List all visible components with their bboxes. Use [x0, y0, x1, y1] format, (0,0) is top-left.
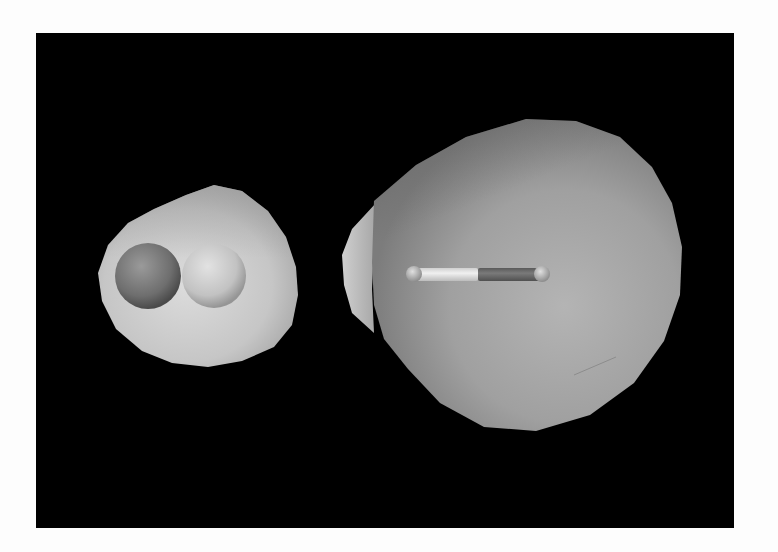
rod-light-segment	[416, 268, 478, 281]
surface-cap	[342, 203, 376, 333]
small-isosurface	[98, 185, 298, 367]
right-atom	[182, 244, 246, 308]
large-isosurface	[342, 119, 682, 431]
rod-right-end	[534, 266, 550, 282]
rod-dark-segment	[478, 268, 540, 281]
left-atom	[115, 243, 181, 309]
rod-left-end	[406, 266, 422, 282]
molecular-render-panel	[36, 33, 734, 528]
molecule-scene	[36, 33, 734, 528]
page	[0, 0, 778, 552]
